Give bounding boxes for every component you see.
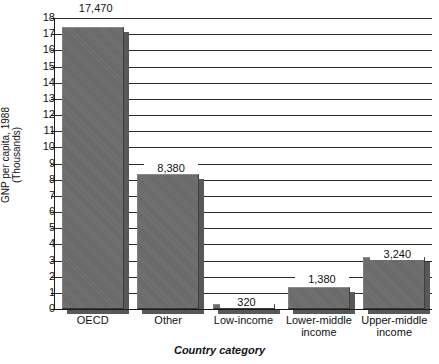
bar-value-label: 1,380 xyxy=(295,274,349,285)
bar-value-label: 8,380 xyxy=(144,163,198,174)
bar-oecd[interactable] xyxy=(62,27,124,309)
bar-value-label: 17,470 xyxy=(69,3,123,14)
bar-other[interactable] xyxy=(137,174,199,309)
gridline xyxy=(55,18,432,19)
x-axis-title: Country category xyxy=(0,344,439,356)
bar-upper-middle-income[interactable] xyxy=(363,257,425,309)
x-category-label: Upper-middle income xyxy=(349,314,439,338)
bar-chart: GNP per capita, 1988 (Thousands) 1817161… xyxy=(0,0,439,364)
bar-value-label: 3,240 xyxy=(370,249,424,260)
y-axis-title-line1: GNP per capita, 1988 xyxy=(0,107,11,203)
bar-value-label: 320 xyxy=(220,297,274,308)
bar-lower-middle-income[interactable] xyxy=(288,287,350,309)
y-axis-ticks: 1817161514131211109876543210 xyxy=(14,0,55,364)
x-axis-line xyxy=(55,309,432,310)
